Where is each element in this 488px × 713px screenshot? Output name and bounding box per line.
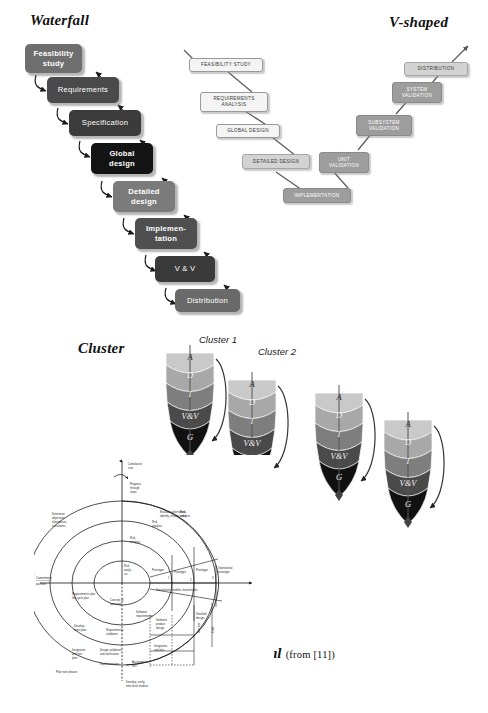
svg-text:partition: partition: [36, 582, 46, 586]
svg-text:G: G: [405, 499, 411, 509]
svg-text:D: D: [335, 410, 343, 420]
svg-text:requirements: requirements: [136, 614, 153, 618]
svg-text:A: A: [248, 379, 255, 389]
svg-text:A: A: [404, 419, 411, 429]
svg-text:product: product: [156, 622, 166, 626]
svg-text:V&V: V&V: [244, 438, 263, 448]
svg-text:V&V: V&V: [400, 478, 419, 488]
spiral-citation: (from [11]): [286, 649, 335, 660]
svg-text:Plan next phases: Plan next phases: [56, 670, 78, 674]
svg-text:Develop-: Develop-: [74, 624, 85, 628]
svg-text:analysis: analysis: [152, 524, 163, 528]
svg-text:validation: validation: [106, 632, 118, 636]
spiral-quadrant-bottom-right: Develop, verify: [126, 680, 145, 684]
svg-text:Implementation: Implementation: [100, 662, 120, 666]
svg-text:through: through: [130, 486, 140, 490]
svg-text:design: design: [196, 616, 205, 620]
svg-text:Integration: Integration: [72, 648, 86, 652]
svg-text:plan: plan: [72, 656, 78, 660]
spiral-diagram: Cumulative cost Progress through steps D…: [34, 455, 274, 687]
svg-text:V&V: V&V: [331, 451, 350, 461]
svg-text:and test: and test: [72, 652, 82, 656]
svg-text:Risk: Risk: [152, 520, 158, 524]
svg-text:steps: steps: [130, 490, 137, 494]
svg-text:Prototype: Prototype: [196, 568, 208, 572]
spiral-commitment: Commitment: [36, 576, 52, 580]
spiral-review: Review: [34, 572, 35, 581]
svg-text:Prototype: Prototype: [174, 570, 186, 574]
svg-text:operation: operation: [110, 602, 122, 606]
svg-text:Software: Software: [156, 618, 167, 622]
svg-text:Requirements: Requirements: [106, 628, 124, 632]
svg-text:Risk: Risk: [130, 536, 136, 540]
svg-text:Risk: Risk: [180, 510, 186, 514]
svg-text:Code: Code: [211, 626, 215, 633]
svg-text:Prototype: Prototype: [152, 568, 164, 572]
svg-text:A: A: [335, 392, 342, 402]
figure-canvas: Waterfall Feasibility: [0, 0, 488, 713]
svg-text:D: D: [248, 397, 256, 407]
spiral-progress: Progress: [130, 482, 142, 486]
spiral-quadrant-top-left: Determine: [52, 512, 65, 516]
svg-text:Integration: Integration: [154, 644, 168, 648]
svg-text:sis: sis: [124, 572, 128, 576]
svg-text:G: G: [187, 432, 193, 442]
svg-text:analysis: analysis: [180, 514, 191, 518]
svg-text:life-cycle plan: life-cycle plan: [72, 596, 89, 600]
svg-text:design: design: [156, 626, 165, 630]
svg-text:Requirements plan: Requirements plan: [72, 592, 96, 596]
svg-text:and test: and test: [154, 648, 164, 652]
svg-text:cost: cost: [128, 466, 133, 470]
spiral-benchmarks: Simulations, models, benchmarks: [156, 588, 198, 592]
svg-text:Unit test: Unit test: [197, 622, 201, 633]
svg-text:Operational: Operational: [218, 566, 233, 570]
svg-text:prototype: prototype: [218, 570, 230, 574]
svg-text:Acceptance: Acceptance: [132, 660, 147, 664]
svg-text:Risk: Risk: [124, 564, 130, 568]
svg-text:alternatives,: alternatives,: [52, 520, 67, 524]
svg-text:Detailed: Detailed: [196, 612, 207, 616]
svg-text:ment plan: ment plan: [74, 628, 87, 632]
svg-text:V&V: V&V: [182, 411, 201, 421]
svg-text:analysis: analysis: [130, 540, 141, 544]
svg-text:and verification: and verification: [100, 652, 119, 656]
svg-text:Concept of: Concept of: [110, 598, 124, 602]
svg-text:next-level product: next-level product: [126, 684, 148, 687]
svg-text:test: test: [132, 664, 137, 668]
svg-text:A: A: [186, 352, 193, 362]
svg-text:constraints: constraints: [52, 524, 66, 528]
svg-text:G: G: [336, 472, 342, 482]
svg-text:objectives,: objectives,: [52, 516, 65, 520]
svg-text:D: D: [186, 370, 194, 380]
svg-text:Software: Software: [136, 610, 147, 614]
svg-text:D: D: [404, 437, 412, 447]
svg-text:Design validation: Design validation: [100, 648, 122, 652]
svg-text:analy-: analy-: [124, 568, 132, 572]
spiral-cumulative-cost: Cumulative: [128, 462, 142, 466]
